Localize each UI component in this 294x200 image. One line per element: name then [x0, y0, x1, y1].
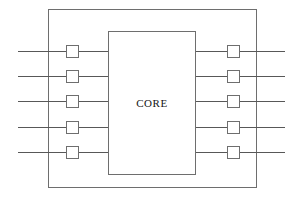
- signal-line-left-1-outer: [18, 51, 66, 52]
- io-pad-right-4: [227, 121, 240, 134]
- signal-line-right-4-outer: [240, 127, 285, 128]
- signal-line-left-3-inner: [79, 101, 108, 102]
- signal-line-left-2-outer: [18, 76, 66, 77]
- signal-line-left-2-inner: [79, 76, 108, 77]
- signal-line-left-1-inner: [79, 51, 108, 52]
- signal-line-left-5-outer: [18, 152, 66, 153]
- io-pad-right-2: [227, 70, 240, 83]
- signal-line-left-5-inner: [79, 152, 108, 153]
- signal-line-right-5-inner: [196, 152, 227, 153]
- io-pad-left-3: [66, 95, 79, 108]
- signal-line-right-3-outer: [240, 101, 285, 102]
- signal-line-right-5-outer: [240, 152, 285, 153]
- signal-line-right-1-inner: [196, 51, 227, 52]
- io-pad-right-5: [227, 146, 240, 159]
- io-pad-right-3: [227, 95, 240, 108]
- signal-line-right-1-outer: [240, 51, 285, 52]
- core-limited-die-diagram: CORE: [0, 0, 294, 200]
- signal-line-left-3-outer: [18, 101, 66, 102]
- io-pad-left-4: [66, 121, 79, 134]
- io-pad-left-1: [66, 45, 79, 58]
- io-pad-left-2: [66, 70, 79, 83]
- io-pad-right-1: [227, 45, 240, 58]
- signal-line-right-2-inner: [196, 76, 227, 77]
- signal-line-right-2-outer: [240, 76, 285, 77]
- signal-line-left-4-inner: [79, 127, 108, 128]
- signal-line-right-4-inner: [196, 127, 227, 128]
- io-pad-left-5: [66, 146, 79, 159]
- signal-line-left-4-outer: [18, 127, 66, 128]
- core-block-label: CORE: [108, 31, 196, 175]
- signal-line-right-3-inner: [196, 101, 227, 102]
